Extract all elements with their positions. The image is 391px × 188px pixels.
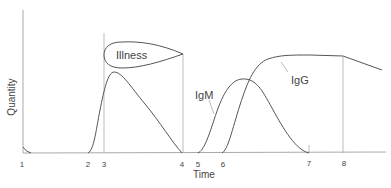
immune-response-diagram: Illness IgM IgG Quantity Time 1 2 3 4 5 … (0, 0, 391, 188)
tick-label-8: 8 (342, 159, 347, 168)
igg-label: IgG (291, 74, 309, 86)
x-axis-label: Time (193, 169, 215, 180)
igg-leader-line (281, 62, 288, 72)
tick-label-1: 1 (20, 160, 25, 169)
tick-label-7: 7 (307, 159, 312, 168)
igm-leader-line (209, 100, 214, 114)
illness-label: Illness (116, 49, 148, 61)
igm-label: IgM (195, 89, 213, 101)
igm-curve (198, 79, 309, 153)
initial-exposure-curve (23, 147, 31, 153)
x-axis (23, 152, 386, 153)
igg-curve (222, 55, 382, 153)
pathogen-curve (88, 72, 182, 153)
y-axis-label: Quantity (6, 78, 17, 115)
tick-label-4: 4 (180, 160, 185, 169)
tick-label-3: 3 (102, 160, 107, 169)
tick-label-6: 6 (221, 160, 226, 169)
tick-label-5: 5 (196, 160, 201, 169)
tick-label-2: 2 (86, 160, 91, 169)
